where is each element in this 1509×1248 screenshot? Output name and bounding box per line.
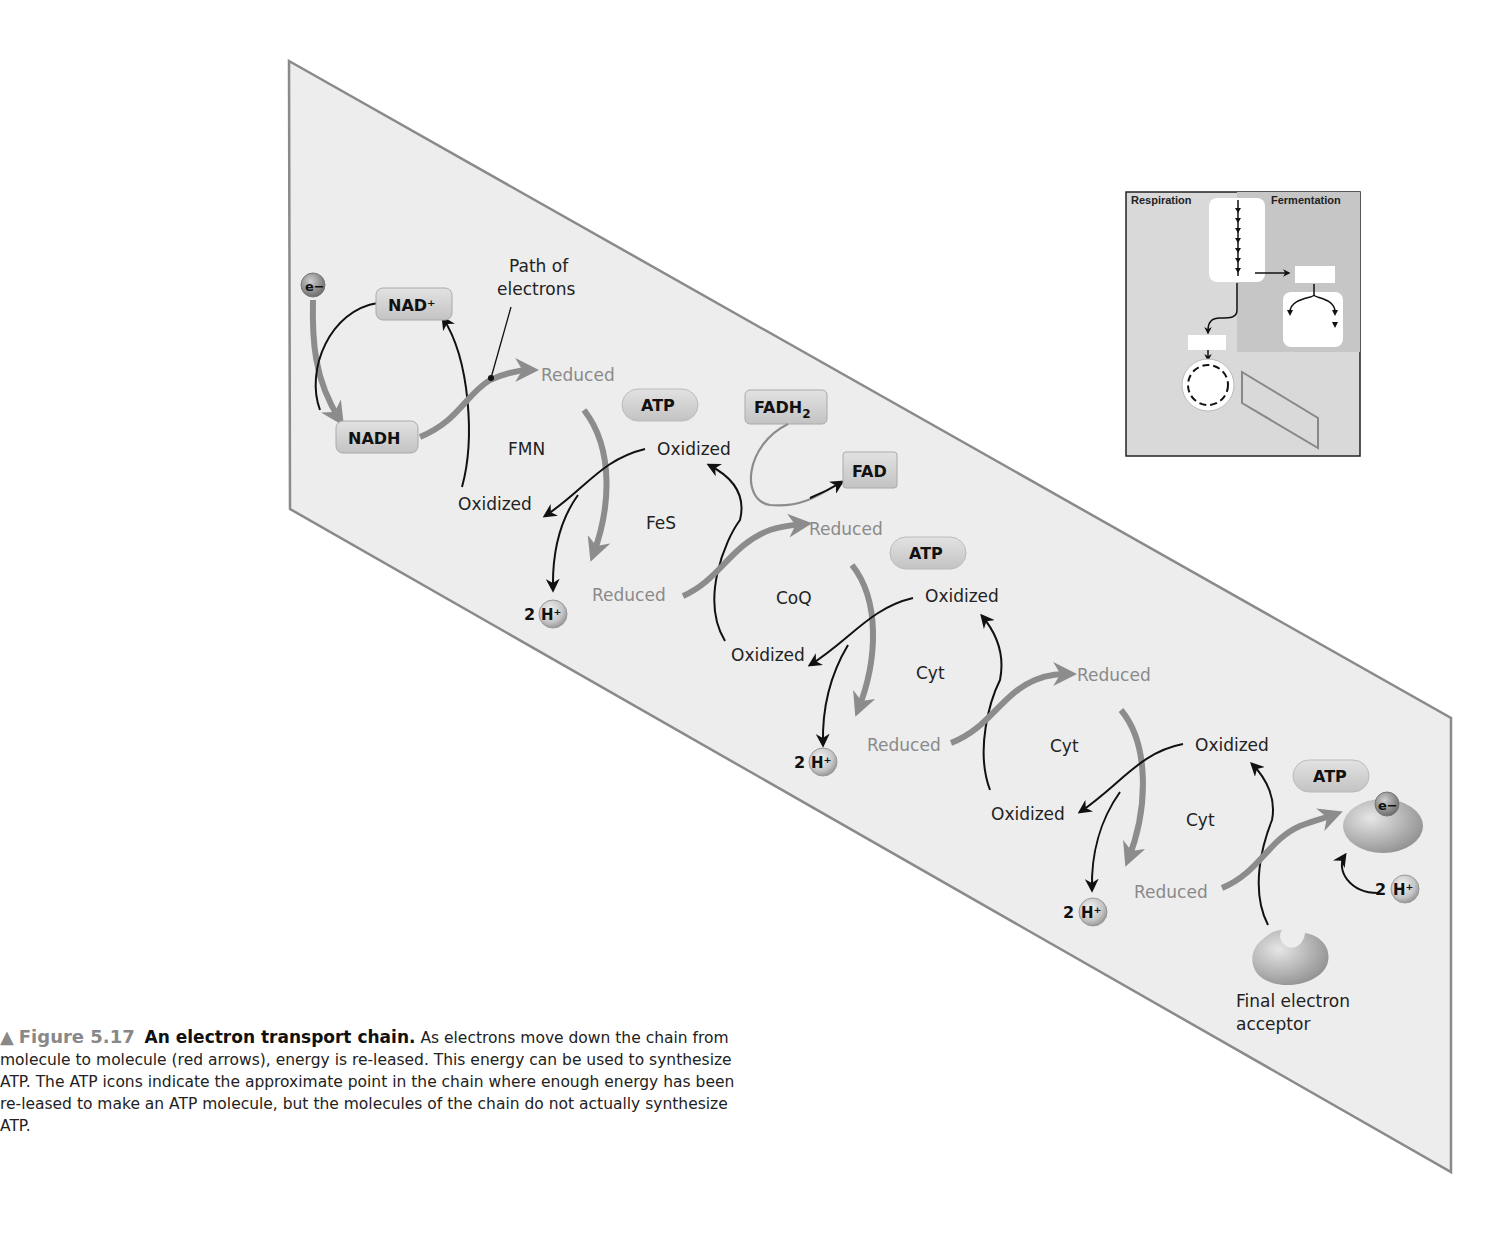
svg-text:H⁺: H⁺: [541, 606, 561, 624]
overview-inset: Respiration Fermentation: [1126, 192, 1360, 456]
coq-oxidized-label: Oxidized: [731, 645, 805, 665]
cyt2-oxidized-label: Oxidized: [991, 804, 1065, 824]
fes-label: FeS: [646, 513, 676, 533]
coq-label: CoQ: [776, 588, 812, 608]
atp-icon-2: ATP: [890, 537, 966, 569]
figure-caption: ▲ Figure 5.17 An electron transport chai…: [0, 1026, 760, 1137]
fmn-reduced-label: Reduced: [541, 365, 615, 385]
svg-text:2: 2: [794, 753, 805, 772]
cyt1-oxidized-label: Oxidized: [925, 586, 999, 606]
inset-fermentation-label: Fermentation: [1271, 194, 1341, 206]
fmn-oxidized-label: Oxidized: [458, 494, 532, 514]
final-acceptor-label-line1: Final electron: [1236, 991, 1350, 1011]
proton-ball-2: 2 H⁺: [794, 748, 837, 776]
inset-respiration-label: Respiration: [1131, 194, 1192, 206]
proton-ball-3: 2 H⁺: [1063, 898, 1107, 926]
atp-icon-1: ATP: [622, 389, 698, 421]
svg-text:e−: e−: [1378, 798, 1398, 813]
svg-text:ATP: ATP: [1313, 767, 1347, 786]
fad-label: FAD: [852, 462, 887, 481]
cyt2-reduced-label: Reduced: [1077, 665, 1151, 685]
figure-marker-icon: ▲: [0, 1026, 14, 1047]
figure-title: An electron transport chain.: [145, 1027, 416, 1047]
coq-reduced-label: Reduced: [809, 519, 883, 539]
svg-text:H⁺: H⁺: [811, 754, 831, 772]
svg-text:ATP: ATP: [641, 396, 675, 415]
fmn-label: FMN: [508, 439, 545, 459]
path-of-electrons-label-line1: Path of: [509, 256, 569, 276]
svg-text:2: 2: [1375, 880, 1386, 899]
nadh-label: NADH: [348, 429, 400, 448]
fes-oxidized-label: Oxidized: [657, 439, 731, 459]
atp-icon-3: ATP: [1293, 760, 1369, 792]
svg-text:2: 2: [1063, 903, 1074, 922]
svg-text:H⁺: H⁺: [1393, 881, 1413, 899]
figure-number: Figure 5.17: [19, 1026, 135, 1047]
svg-text:H⁺: H⁺: [1081, 904, 1101, 922]
path-of-electrons-label-line2: electrons: [497, 279, 575, 299]
svg-text:ATP: ATP: [909, 544, 943, 563]
cyt3-oxidized-label: Oxidized: [1195, 735, 1269, 755]
final-acceptor-label-line2: acceptor: [1236, 1014, 1310, 1034]
electron-label: e−: [305, 279, 325, 294]
nad-plus-label: NAD⁺: [388, 296, 436, 315]
fes-reduced-label: Reduced: [592, 585, 666, 605]
cyt1-label: Cyt: [916, 663, 945, 683]
cyt2-label: Cyt: [1050, 736, 1079, 756]
cyt3-reduced-label: Reduced: [1134, 882, 1208, 902]
cyt3-label: Cyt: [1186, 810, 1215, 830]
cyt1-reduced-label: Reduced: [867, 735, 941, 755]
proton-ball-1: 2 H⁺: [524, 600, 567, 628]
proton-ball-4: 2 H⁺: [1375, 875, 1419, 903]
svg-text:2: 2: [524, 605, 535, 624]
